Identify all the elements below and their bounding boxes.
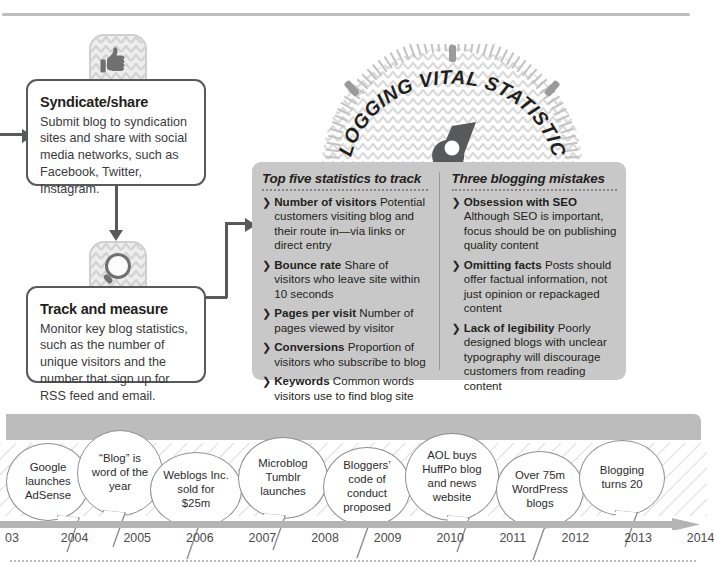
list-item: ❯Keywords Common words visitors use to f…	[262, 374, 428, 403]
stat-list: ❯Number of visitors Potential customers …	[262, 195, 428, 403]
heading-dotted-rule	[262, 189, 428, 191]
timeline-bottom-dotted-rule	[10, 560, 696, 562]
list-item-term: Number of visitors	[274, 195, 376, 208]
list-item-text: Omitting facts Posts should offer factua…	[464, 258, 617, 316]
list-item-text: Bounce rate Share of visitors who leave …	[274, 258, 427, 301]
timeline-event-text: Weblogs Inc.sold for$25m	[163, 469, 229, 511]
chevron-right-icon: ❯	[262, 306, 271, 335]
timeline-event-bubble[interactable]: Bloggers’code ofconductproposed	[323, 447, 411, 527]
timeline-year-label: 2012	[562, 531, 590, 545]
chevron-right-icon: ❯	[262, 374, 271, 403]
panel-column-mistakes: Three blogging mistakes ❯Obsession with …	[440, 172, 618, 370]
timeline-event-bubble[interactable]: MicroblogTumblrlaunches	[238, 437, 328, 519]
list-item-text: Number of visitors Potential customers v…	[274, 195, 427, 253]
panel-heading: Top five statistics to track	[262, 172, 428, 187]
chevron-right-icon: ❯	[452, 321, 461, 393]
list-item-text: Lack of legibility Poorly designed blogs…	[464, 321, 617, 393]
timeline-year-label: 2005	[123, 531, 151, 545]
connector-syndicate-to-track	[115, 186, 118, 232]
chevron-right-icon: ❯	[452, 258, 461, 316]
chevron-right-icon: ❯	[262, 258, 271, 301]
list-item: ❯Pages per visit Number of pages viewed …	[262, 306, 428, 335]
list-item: ❯Lack of legibility Poorly designed blog…	[452, 321, 618, 393]
timeline-event-text: Over 75mWordPressblogs	[512, 469, 568, 511]
connector-arrowhead-down	[109, 230, 123, 241]
connector-track-right-stub	[206, 296, 227, 299]
gauge-header: BLOGGING VITAL STATISTICS	[318, 44, 586, 166]
list-item: ❯Obsession with SEO Although SEO is impo…	[452, 195, 618, 253]
stats-panel: Top five statistics to track ❯Number of …	[252, 162, 626, 380]
timeline-year-label: 2010	[436, 531, 464, 545]
list-item-text: Conversions Proportion of visitors who s…	[274, 340, 427, 369]
timeline-year-label: 2008	[311, 531, 339, 545]
timeline-event-text: MicroblogTumblrlaunches	[258, 457, 307, 499]
timeline-year-label: 03	[5, 531, 19, 545]
list-item-term: Lack of legibility	[464, 321, 555, 334]
list-item-term: Obsession with SEO	[464, 195, 577, 208]
step-title: Syndicate/share	[40, 94, 193, 111]
panel-heading: Three blogging mistakes	[452, 172, 618, 187]
timeline-year-label: 2014	[687, 531, 714, 545]
timeline-year-label: 2011	[499, 531, 526, 545]
list-item-text: Obsession with SEO Although SEO is impor…	[464, 195, 617, 253]
list-item: ❯Omitting facts Posts should offer factu…	[452, 258, 618, 316]
timeline-event-text: GooglelaunchesAdSense	[25, 461, 71, 503]
step-body: Monitor key blog statistics, such as the…	[40, 321, 193, 405]
list-item-term: Omitting facts	[464, 258, 542, 271]
timeline-event-text: “Blog” isword of theyear	[92, 452, 148, 494]
timeline-event-bubble[interactable]: “Blog” isword of theyear	[77, 430, 163, 516]
timeline-event-bubble[interactable]: AOL buysHuffPo blogand newswebsite	[405, 433, 499, 521]
list-item-term: Keywords	[274, 374, 329, 387]
timeline-year-label: 2013	[624, 531, 652, 545]
step-card-syndicate-share[interactable]: Syndicate/share Submit blog to syndicati…	[26, 79, 206, 186]
list-item-term: Bounce rate	[274, 258, 341, 271]
step-title: Track and measure	[40, 301, 193, 318]
connector-track-vertical	[225, 222, 228, 298]
list-item: ❯Bounce rate Share of visitors who leave…	[262, 258, 428, 301]
timeline-axis	[0, 516, 707, 528]
list-item: ❯Conversions Proportion of visitors who …	[262, 340, 428, 369]
chevron-right-icon: ❯	[452, 195, 461, 253]
timeline-event-text: Bloggingturns 20	[600, 464, 644, 492]
chevron-right-icon: ❯	[262, 340, 271, 369]
list-item-text: Pages per visit Number of pages viewed b…	[274, 306, 427, 335]
timeline-event-text: Bloggers’code ofconductproposed	[343, 459, 391, 515]
connector-into-panel	[225, 222, 247, 225]
chevron-right-icon: ❯	[262, 195, 271, 253]
mistake-list: ❯Obsession with SEO Although SEO is impo…	[452, 195, 618, 393]
list-item-term: Pages per visit	[274, 306, 356, 319]
panel-column-top-five: Top five statistics to track ❯Number of …	[262, 172, 440, 370]
inbound-connector-line	[0, 133, 22, 136]
step-card-track-measure[interactable]: Track and measure Monitor key blog stati…	[26, 286, 206, 383]
timeline-year-label: 2006	[186, 531, 214, 545]
heading-dotted-rule	[452, 189, 618, 191]
timeline-event-text: AOL buysHuffPo blogand newswebsite	[422, 449, 481, 505]
timeline-event-bubble[interactable]: Bloggingturns 20	[579, 440, 665, 516]
timeline-year-label: 2007	[249, 531, 277, 545]
timeline-year-label: 2004	[61, 531, 89, 545]
list-item: ❯Number of visitors Potential customers …	[262, 195, 428, 253]
list-item-text: Keywords Common words visitors use to fi…	[274, 374, 427, 403]
timeline-year-label: 2009	[374, 531, 402, 545]
top-divider-rule	[2, 13, 690, 16]
step-body: Submit blog to syndication sites and sha…	[40, 114, 193, 198]
list-item-term: Conversions	[274, 340, 344, 353]
